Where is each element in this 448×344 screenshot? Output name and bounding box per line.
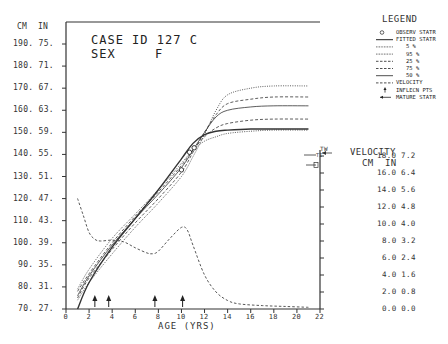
curve-line — [78, 86, 309, 300]
legend-item-label: 95 % — [406, 51, 419, 57]
x-tick-label: 16 — [246, 313, 255, 321]
observed-point — [192, 146, 196, 150]
legend-item: 95 % — [376, 51, 448, 58]
x-tick-label: 4 — [110, 313, 115, 321]
y-tick-label: 120. 47. — [13, 194, 54, 203]
velocity-tick-label: 4.0 1.6 — [382, 270, 416, 279]
y-tick-label: 160. 63. — [13, 105, 54, 114]
y-tick-label: 170. 67. — [13, 83, 54, 92]
x-tick-label: 22 — [315, 313, 324, 321]
sex-value: F — [155, 47, 163, 61]
y-tick-label: 110. 43. — [13, 216, 54, 225]
legend-item: MATURE STATR — [376, 94, 448, 101]
legend-title: LEGEND — [382, 14, 418, 24]
legend-item-label: 25 % — [406, 58, 419, 64]
velocity-unit-in: IN — [385, 158, 396, 168]
observed-point — [179, 168, 183, 172]
inflection-arrow-icon — [152, 295, 157, 301]
y-tick-label: 70. 27. — [13, 304, 54, 313]
x-tick-label: 0 — [64, 313, 69, 321]
velocity-tick-label: 10.0 4.0 — [377, 219, 416, 228]
legend-item: 50 % — [376, 72, 448, 79]
legend-item-label: 5 % — [406, 43, 416, 49]
curve-line — [78, 119, 309, 291]
velocity-tick-label: 0.0 0.0 — [382, 304, 416, 313]
inflection-arrow-icon — [180, 295, 185, 301]
curve-line — [78, 97, 309, 298]
legend-item: FITTED STATR — [376, 36, 448, 43]
y-tick-label: 130. 51. — [13, 172, 54, 181]
legend-item: OBSERV STATR — [376, 29, 448, 36]
x-tick-label: 18 — [269, 313, 278, 321]
observed-point — [187, 150, 191, 154]
velocity-tick-label: 16.0 6.4 — [377, 168, 416, 177]
velocity-tick-label: 8.0 3.2 — [382, 236, 416, 245]
left-unit-cm: CM — [17, 22, 27, 31]
y-tick-label: 180. 71. — [13, 61, 54, 70]
legend-item: 25 % — [376, 58, 448, 65]
y-tick-label: 140. 55. — [13, 149, 54, 158]
legend-item: 5 % — [376, 43, 448, 50]
x-tick-label: 14 — [223, 313, 232, 321]
legend-item: 75 % — [376, 65, 448, 72]
x-tick-label: 12 — [200, 313, 209, 321]
x-tick-label: 10 — [176, 313, 185, 321]
y-tick-label: 150. 59. — [13, 127, 54, 136]
percentile-curves — [78, 86, 309, 309]
y-tick-label: 100. 39. — [13, 238, 54, 247]
tw-marker-label: TW — [320, 145, 328, 152]
y-tick-label: 80. 31. — [13, 282, 54, 291]
legend-item: INFLECN PTS — [376, 87, 448, 94]
curve-line — [78, 130, 309, 289]
y-tick-label: 90. 35. — [13, 260, 54, 269]
curve-line — [78, 106, 309, 296]
case-id-label: CASE ID 127 C — [91, 33, 198, 47]
ti-marker-label: TI — [316, 152, 323, 158]
legend-item-label: OBSERV STATR — [396, 29, 436, 35]
inflection-arrows — [92, 295, 185, 307]
plot-frame — [66, 22, 320, 309]
inflection-arrow-icon — [106, 295, 111, 301]
legend-item-label: INFLECN PTS — [396, 87, 432, 93]
inflection-arrow-icon — [92, 295, 97, 301]
velocity-axis-title: VELOCITY — [350, 147, 396, 157]
legend-item-label: MATURE STATR — [396, 94, 436, 100]
legend-item-label: FITTED STATR — [396, 36, 436, 42]
legend-item: VELOCITY — [376, 79, 448, 86]
x-tick-label: 2 — [87, 313, 92, 321]
velocity-tick-label: 12.0 4.8 — [377, 202, 416, 211]
legend-item-label: VELOCITY — [396, 79, 423, 85]
velocity-unit-cm: CM — [362, 158, 373, 168]
x-tick-label: 20 — [292, 313, 301, 321]
left-unit-in: IN — [38, 22, 48, 31]
x-axis-title: AGE (YRS) — [158, 321, 216, 331]
velocity-tick-label: 14.0 5.6 — [377, 185, 416, 194]
y-tick-label: 190. 75. — [13, 39, 54, 48]
velocity-curve — [78, 199, 309, 308]
x-tick-label: 8 — [156, 313, 161, 321]
curve-line — [78, 129, 309, 309]
velocity-tick-label: 6.0 2.4 — [382, 253, 416, 262]
velocity-tick-label: 2.0 0.8 — [382, 287, 416, 296]
legend-item-label: 75 % — [406, 65, 419, 71]
legend-item-label: 50 % — [406, 72, 419, 78]
sex-label: SEX — [91, 47, 116, 61]
x-tick-label: 6 — [133, 313, 138, 321]
